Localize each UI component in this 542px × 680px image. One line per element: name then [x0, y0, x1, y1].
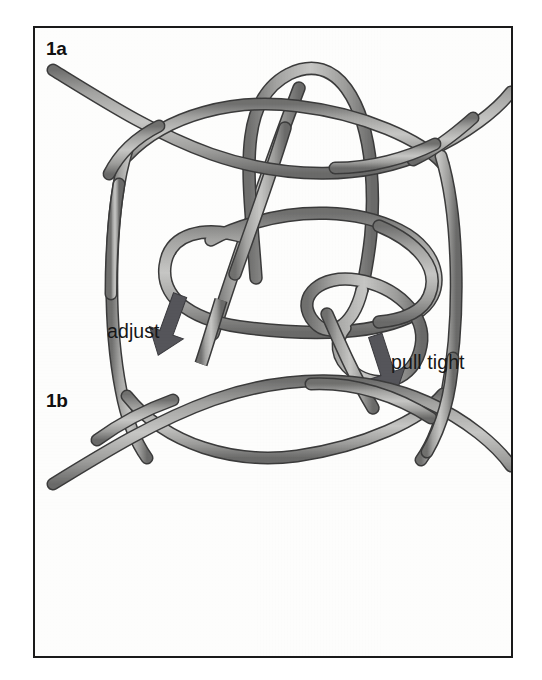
panel-label-1a: 1a	[46, 39, 67, 58]
panel-label-1b: 1b	[46, 391, 68, 410]
knot-illustration	[35, 28, 511, 656]
callout-pull-tight-label: pull tight	[391, 353, 465, 373]
figure-page: 1a 1b adjust pull tight	[0, 0, 542, 680]
figure-plate: 1a 1b adjust pull tight	[33, 26, 513, 658]
callout-adjust-label: adjust	[107, 322, 160, 342]
rope-adjust-tail-tip	[201, 300, 221, 364]
